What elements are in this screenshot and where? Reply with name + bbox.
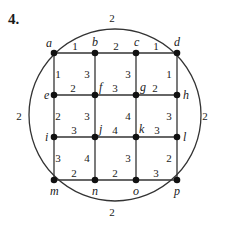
node-label-b: b xyxy=(92,35,98,49)
edge-weight-a-e: 1 xyxy=(55,68,61,80)
node-label-k: k xyxy=(139,122,145,136)
node-label-i: i xyxy=(45,130,48,144)
edge-weight-n-o: 2 xyxy=(112,167,118,179)
node-l xyxy=(174,134,181,141)
node-b xyxy=(92,50,99,57)
node-c xyxy=(133,50,140,57)
edge-weight-i-j: 3 xyxy=(71,124,77,136)
node-i xyxy=(51,134,58,141)
edge-weight-e-f: 2 xyxy=(70,82,76,94)
grid-edges xyxy=(54,53,177,180)
node-a xyxy=(51,50,58,57)
arc-weight-a-d: 2 xyxy=(109,12,115,24)
node-e xyxy=(51,92,58,99)
arc-weight-p-m: 2 xyxy=(109,206,115,218)
node-j xyxy=(92,134,99,141)
node-label-l: l xyxy=(183,130,187,144)
node-o xyxy=(133,177,140,184)
node-f xyxy=(92,92,99,99)
node-label-f: f xyxy=(99,80,104,94)
node-label-m: m xyxy=(50,184,59,198)
edge-weight-e-i: 2 xyxy=(55,110,61,122)
edge-weight-h-l: 3 xyxy=(166,110,172,122)
node-m xyxy=(51,177,58,184)
node-label-n: n xyxy=(92,184,98,198)
node-label-g: g xyxy=(140,80,146,94)
node-n xyxy=(92,177,99,184)
edge-weight-j-k: 4 xyxy=(112,124,118,136)
problem-number: 4. xyxy=(8,11,20,27)
node-h xyxy=(174,92,181,99)
edge-weight-k-o: 3 xyxy=(125,152,131,164)
edge-weight-c-d: 1 xyxy=(153,40,159,52)
node-label-p: p xyxy=(173,184,180,198)
node-label-d: d xyxy=(174,35,181,49)
arc-weight-d-p: 2 xyxy=(202,110,208,122)
edge-weight-k-l: 3 xyxy=(154,124,160,136)
weighted-graph-diagram: 4. 1212323432231233343431322222 abcdefgh… xyxy=(0,0,225,228)
edge-weight-b-f: 3 xyxy=(84,68,90,80)
edge-weight-o-p: 3 xyxy=(153,167,159,179)
graph-nodes xyxy=(51,50,181,184)
node-label-j: j xyxy=(97,122,103,136)
edge-weight-f-j: 3 xyxy=(84,110,90,122)
node-label-c: c xyxy=(134,35,140,49)
node-label-a: a xyxy=(46,36,52,50)
node-label-h: h xyxy=(183,88,189,102)
edge-weight-d-h: 1 xyxy=(166,68,172,80)
edge-weight-a-b: 1 xyxy=(72,40,78,52)
edge-weight-m-n: 2 xyxy=(71,167,77,179)
arc-weight-m-a: 2 xyxy=(16,110,22,122)
edge-weight-g-h: 2 xyxy=(152,82,158,94)
edge-weight-i-m: 3 xyxy=(55,152,61,164)
edge-weight-c-g: 3 xyxy=(125,68,131,80)
node-label-e: e xyxy=(44,88,50,102)
node-label-o: o xyxy=(133,184,139,198)
edge-weight-f-g: 3 xyxy=(112,82,118,94)
edge-weight-l-p: 2 xyxy=(166,152,172,164)
edge-weight-b-c: 2 xyxy=(113,40,119,52)
edge-weight-g-k: 4 xyxy=(125,110,131,122)
node-p xyxy=(174,177,181,184)
node-d xyxy=(174,50,181,57)
edge-weight-j-n: 4 xyxy=(84,152,90,164)
node-g xyxy=(133,92,140,99)
